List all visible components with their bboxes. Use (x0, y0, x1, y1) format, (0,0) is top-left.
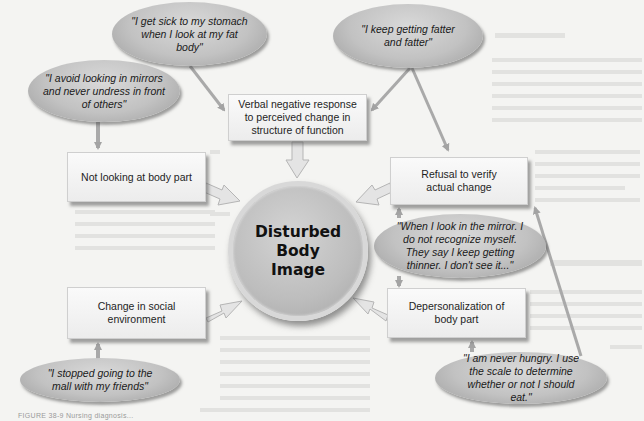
quote-stopped-mall: "I stopped going to the mall with my fri… (20, 358, 180, 402)
quote-getting-fatter: "I keep getting fatter and fatter" (333, 4, 483, 68)
arrow-sick-to-verbal (190, 66, 224, 110)
central-concept-label: Disturbed Body Image (255, 223, 341, 280)
arrow-fatter-to-verbal (372, 68, 410, 110)
quote-avoid-mirrors: "I avoid looking in mirrors and never un… (28, 60, 180, 122)
arrow-hungry-to-refusal (535, 208, 581, 356)
block-arrow-verbal-to-center (286, 142, 309, 178)
box-change-social-environment: Change in social environment (67, 287, 206, 339)
central-concept-circle: Disturbed Body Image (228, 181, 368, 321)
quote-never-hungry: "I am never hungry. I use the scale to d… (435, 352, 607, 404)
quote-sick-stomach: "I get sick to my stomach when I look at… (112, 2, 267, 66)
box-not-looking-at-body-part: Not looking at body part (67, 152, 206, 202)
box-depersonalization: Depersonalization of body part (387, 288, 526, 338)
block-arrow-depersonalization-to-center (353, 298, 388, 321)
block-arrow-refusal-to-center (356, 183, 392, 205)
box-refusal-to-verify: Refusal to verify actual change (390, 157, 528, 205)
box-verbal-negative-response: Verbal negative response to perceived ch… (228, 94, 367, 141)
arrow-fatter-to-refusal (412, 68, 448, 150)
block-arrow-social-to-center (206, 301, 242, 322)
block-arrow-not-looking-to-center (204, 183, 240, 205)
figure-caption: FIGURE 38-9 Nursing diagnosis... (18, 412, 133, 419)
quote-do-not-recognize: "When I look in the mirror. I do not rec… (374, 214, 546, 278)
